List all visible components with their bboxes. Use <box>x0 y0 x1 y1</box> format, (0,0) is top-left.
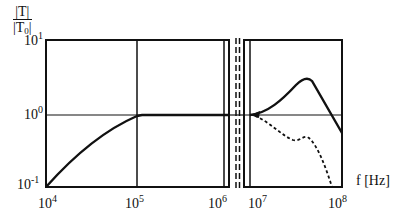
xtick-1e8: 108 <box>328 197 347 211</box>
y-axis-label-numerator: |T| <box>13 4 32 20</box>
xtick-exp: 8 <box>342 193 347 204</box>
xtick-exp: 5 <box>139 193 144 204</box>
ytick-1e-1: 10-1 <box>17 178 39 192</box>
xtick-1e6: 106 <box>208 197 227 211</box>
xtick-base: 10 <box>248 196 262 211</box>
x-axis-label: f [Hz] <box>356 174 390 188</box>
ytick-1e0: 100 <box>24 108 43 122</box>
ytick-exp: -1 <box>31 174 39 185</box>
xtick-exp: 6 <box>222 193 227 204</box>
ytick-base: 10 <box>17 177 31 192</box>
xtick-base: 10 <box>38 196 52 211</box>
xtick-1e7: 107 <box>248 197 267 211</box>
ytick-base: 10 <box>24 107 38 122</box>
ytick-1e1: 101 <box>24 34 43 48</box>
xtick-exp: 7 <box>262 193 267 204</box>
ytick-exp: 0 <box>38 104 43 115</box>
xtick-base: 10 <box>208 196 222 211</box>
curve-high-frequency-solid <box>250 79 342 133</box>
xtick-exp: 4 <box>52 193 57 204</box>
ytick-base: 10 <box>24 33 38 48</box>
xtick-base: 10 <box>328 196 342 211</box>
curve-high-frequency-dashed <box>255 116 332 187</box>
xtick-1e5: 105 <box>125 197 144 211</box>
xtick-base: 10 <box>125 196 139 211</box>
y-den-text: |T <box>13 20 24 35</box>
y-axis-label: |T| |T0| <box>13 4 32 35</box>
chart-canvas <box>0 0 407 222</box>
ytick-exp: 1 <box>38 30 43 41</box>
xtick-1e4: 104 <box>38 197 57 211</box>
